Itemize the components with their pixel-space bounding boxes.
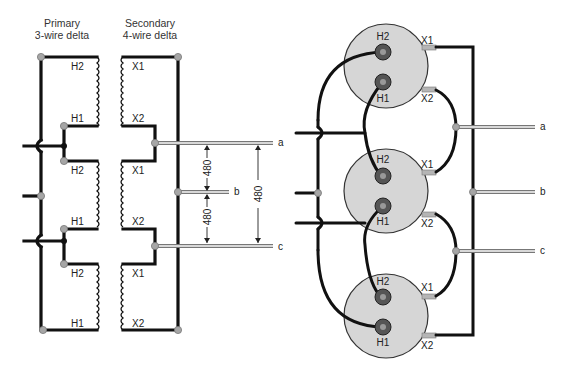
secondary-coil-2-top-label: X1 (132, 165, 145, 176)
primary-junction-2 (64, 229, 97, 264)
primary-coil-1-bottom-label: H1 (71, 113, 84, 124)
line-label-b: b (234, 186, 240, 197)
secondary-coil-3 (121, 264, 123, 330)
t2-x-top-label: X1 (421, 159, 434, 170)
pictorial-line-label-b: b (540, 186, 546, 197)
t3-h-bottom-label: H1 (377, 337, 390, 348)
primary-subtitle: 3-wire delta (35, 29, 89, 41)
secondary-title: Secondary (125, 17, 176, 29)
wire-t2x2-t3x1 (436, 214, 456, 296)
secondary-junction-1 (123, 126, 155, 161)
t3-x-bottom-label: X2 (421, 340, 434, 351)
voltage-b-c: 480 (202, 208, 213, 225)
primary-coil-3-top-label: H2 (71, 268, 84, 279)
pictorial-line-label-a: a (540, 121, 546, 132)
schematic-diagram: Primary 3-wire delta Secondary 4-wire de… (24, 17, 284, 334)
line-label-a: a (278, 137, 284, 148)
secondary-coil-1-top-label: X1 (132, 61, 145, 72)
line-label-c: c (278, 241, 283, 252)
secondary-junction-2 (123, 229, 155, 264)
t1-x-top-label: X1 (421, 35, 434, 46)
primary-coil-2-top-label: H2 (71, 165, 84, 176)
primary-coil-2-bottom-label: H1 (71, 216, 84, 227)
secondary-coil-2-bottom-label: X2 (132, 216, 145, 227)
primary-coil-2 (97, 161, 99, 227)
secondary-coil-3-top-label: X1 (132, 268, 145, 279)
primary-coil-1 (97, 57, 99, 126)
secondary-coil-1 (121, 57, 123, 126)
t1-x-bottom-label: X2 (421, 93, 434, 104)
secondary-coil-1-bottom-label: X2 (132, 113, 145, 124)
secondary-coil-3-bottom-label: X2 (132, 318, 145, 329)
primary-title: Primary (44, 17, 81, 29)
pictorial-diagram: a b c H2 H1 X1 X2 H2 H1 X1 X2 H2 H1 X1 X… (296, 24, 546, 358)
pictorial-line-label-c: c (540, 245, 545, 256)
primary-coil-3-bottom-label: H1 (71, 318, 84, 329)
t2-h-bottom-label: H1 (377, 216, 390, 227)
primary-coil-1-top-label: H2 (71, 61, 84, 72)
voltage-a-b: 480 (202, 159, 213, 176)
delta-transformer-diagram: Primary 3-wire delta Secondary 4-wire de… (0, 0, 567, 377)
t3-x-top-label: X1 (421, 282, 434, 293)
t3-h-top-label: H2 (377, 276, 390, 287)
t1-h-top-label: H2 (377, 31, 390, 42)
t2-h-top-label: H2 (377, 154, 390, 165)
t2-x-bottom-label: X2 (421, 218, 434, 229)
secondary-coil-2 (121, 161, 123, 227)
secondary-subtitle: 4-wire delta (123, 29, 177, 41)
secondary-right-bus (123, 57, 178, 330)
primary-coil-3 (97, 264, 99, 330)
primary-junction-1 (64, 126, 97, 161)
t1-h-bottom-label: H1 (377, 93, 390, 104)
wire-t1x2-t2x1 (436, 90, 456, 172)
voltage-a-c: 480 (253, 185, 264, 202)
